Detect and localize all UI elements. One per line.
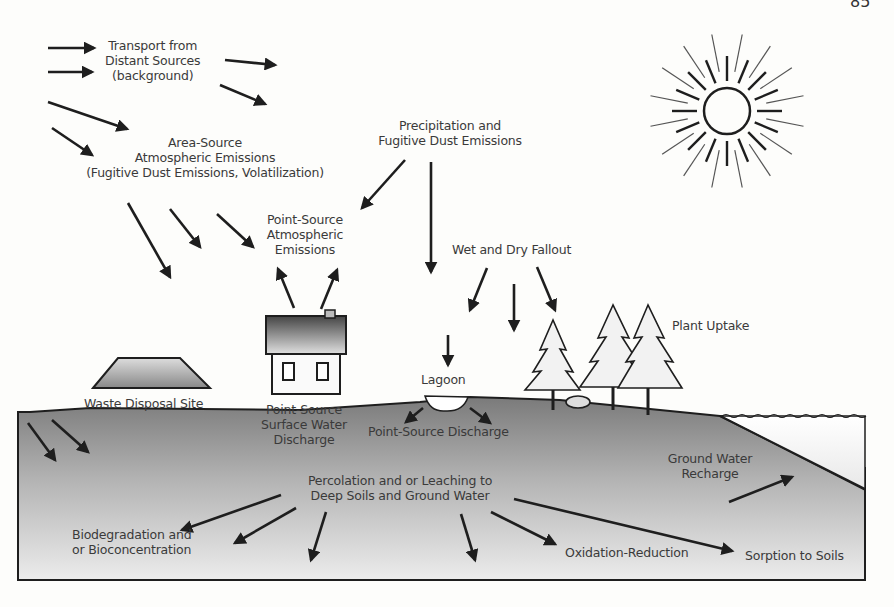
label-area-source: Area-Source Atmospheric Emissions (Fugit… <box>60 135 350 180</box>
label-biodegradation: Biodegradation and or Bioconcentration <box>72 527 191 557</box>
label-sorption-to-soils: Sorption to Soils <box>745 548 844 563</box>
label-wet-dry-fallout: Wet and Dry Fallout <box>452 242 571 257</box>
sun-icon <box>650 34 803 187</box>
label-point-source-atmospheric: Point-Source Atmospheric Emissions <box>255 212 355 257</box>
label-precipitation: Precipitation and Fugitive Dust Emission… <box>355 118 545 148</box>
label-oxidation-reduction: Oxidation-Reduction <box>565 545 688 560</box>
diagram-canvas: 85 Transport from Distant Sources (backg… <box>0 0 894 607</box>
diagram-svg <box>0 0 894 607</box>
label-point-source-discharge: Point-Source Discharge <box>368 424 509 439</box>
waste-disposal-mound <box>93 358 210 388</box>
label-lagoon: Lagoon <box>421 372 466 387</box>
label-point-source-surface-water: Point-Source Surface Water Discharge <box>254 402 354 447</box>
label-plant-uptake: Plant Uptake <box>672 318 749 333</box>
label-ground-water-recharge: Ground Water Recharge <box>660 451 760 481</box>
page-number: 85 <box>850 0 870 11</box>
label-percolation: Percolation and or Leaching to Deep Soil… <box>285 473 515 503</box>
label-transport: Transport from Distant Sources (backgrou… <box>105 38 200 83</box>
pine-trees-icon <box>525 305 682 415</box>
label-waste-disposal-site: Waste Disposal Site <box>84 396 203 411</box>
house-icon <box>266 310 346 394</box>
